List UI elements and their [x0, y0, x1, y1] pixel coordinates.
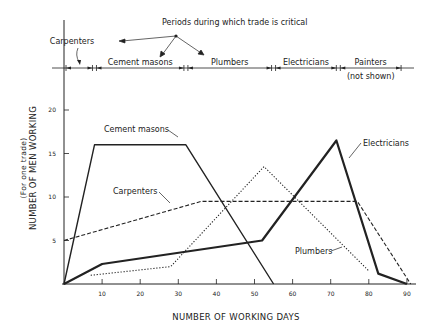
y-axis-title: NUMBER OF MEN WORKING	[28, 106, 38, 230]
series-label: Cement masons	[104, 125, 169, 134]
series-label: Carpenters	[113, 187, 157, 196]
x-tick-label: 20	[136, 290, 144, 297]
y-tick-label: 15	[48, 150, 56, 157]
carpenters-period-pointer	[77, 48, 79, 62]
critical-periods: CarpentersCement masonsPlumbersElectrici…	[50, 37, 401, 81]
x-tick-label: 40	[213, 290, 221, 297]
x-tick-label: 70	[327, 290, 335, 297]
x-axis-title: NUMBER OF WORKING DAYS	[172, 312, 299, 322]
series-lines	[64, 141, 411, 285]
x-ticks: 102030405060708090	[98, 279, 411, 297]
series-label-pointer	[331, 247, 342, 251]
chart: 102030405060708090 5101520 CarpentersCem…	[0, 0, 429, 336]
series-label-pointer	[168, 130, 178, 137]
series-cement-masons	[64, 145, 274, 284]
period-label: Plumbers	[211, 58, 248, 67]
y-ticks: 5101520	[48, 106, 69, 244]
x-tick-label: 30	[174, 290, 182, 297]
series-label-pointer	[349, 143, 361, 158]
y-tick-label: 20	[48, 106, 56, 113]
period-label: Painters	[355, 58, 387, 67]
title-arrows	[119, 36, 204, 57]
series-label-pointer	[159, 192, 170, 203]
period-sublabel: (not shown)	[347, 72, 395, 81]
series-label: Electricians	[363, 139, 409, 148]
x-tick-label: 60	[289, 290, 297, 297]
x-tick-label: 10	[98, 290, 106, 297]
y-tick-label: 10	[48, 193, 56, 200]
x-tick-label: 50	[251, 290, 259, 297]
x-tick-label: 80	[365, 290, 373, 297]
series-electricians	[64, 141, 407, 285]
period-label: Carpenters	[50, 37, 94, 46]
period-label: Cement masons	[108, 58, 173, 67]
series-label: Plumbers	[295, 247, 332, 256]
carpenters-period-arrowhead	[77, 60, 81, 65]
y-tick-label: 5	[52, 237, 56, 244]
period-label: Electricians	[283, 58, 329, 67]
chart-title: Periods during which trade is critical	[162, 18, 307, 27]
x-tick-label: 90	[403, 290, 411, 297]
y-axis-subtitle: (For one trade)	[19, 138, 28, 199]
